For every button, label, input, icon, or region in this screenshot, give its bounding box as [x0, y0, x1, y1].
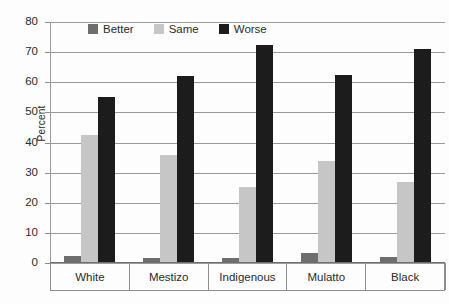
x-axis-label-black: Black — [365, 263, 445, 290]
x-axis-label-mulatto: Mulatto — [286, 263, 365, 290]
bar-same-black — [397, 182, 414, 263]
y-axis-tick-label: 10 — [25, 227, 38, 239]
bar-worse-mestizo — [177, 76, 194, 263]
legend-swatch-worse-icon — [219, 24, 229, 34]
legend-label: Worse — [234, 23, 267, 35]
bar-same-mulatto — [318, 161, 335, 263]
bar-same-mestizo — [160, 155, 177, 263]
legend-item-better: Better — [88, 23, 134, 35]
bars-layer — [50, 22, 445, 263]
bar-group — [287, 22, 366, 263]
legend-swatch-same-icon — [154, 24, 164, 34]
legend-label: Better — [103, 23, 134, 35]
x-axis-end-tick — [445, 263, 446, 290]
legend-item-worse: Worse — [219, 23, 267, 35]
y-axis-tick-label: 50 — [25, 107, 38, 119]
bar-same-indigenous — [239, 187, 256, 263]
bar-group — [366, 22, 445, 263]
y-axis-tick-label: 40 — [25, 137, 38, 149]
y-axis-tick-label: 60 — [25, 77, 38, 89]
x-axis-label-mestizo: Mestizo — [129, 263, 208, 290]
x-axis-category-labels: WhiteMestizoIndigenousMulattoBlack — [50, 263, 445, 291]
y-axis-tick-label: 80 — [25, 16, 38, 28]
y-axis-tick-label: 70 — [25, 46, 38, 58]
bar-chart: Percent 01020304050607080 BetterSameWors… — [0, 0, 449, 304]
bar-worse-indigenous — [256, 45, 273, 263]
legend-swatch-better-icon — [88, 24, 98, 34]
bar-group — [50, 22, 129, 263]
bar-worse-mulatto — [335, 75, 352, 263]
bar-group — [208, 22, 287, 263]
legend: BetterSameWorse — [88, 23, 267, 35]
y-axis-tick-label: 0 — [32, 257, 38, 269]
plot-area — [50, 22, 445, 263]
bar-worse-white — [98, 97, 115, 263]
bar-group — [129, 22, 208, 263]
y-axis-tick-label: 30 — [25, 167, 38, 179]
x-axis-label-indigenous: Indigenous — [208, 263, 287, 290]
legend-item-same: Same — [154, 23, 199, 35]
y-axis-tick-label: 20 — [25, 197, 38, 209]
x-axis-label-white: White — [50, 263, 129, 290]
legend-label: Same — [169, 23, 199, 35]
bar-worse-black — [414, 49, 431, 263]
bar-same-white — [81, 135, 98, 263]
y-axis-tick-labels: 01020304050607080 — [0, 0, 44, 304]
